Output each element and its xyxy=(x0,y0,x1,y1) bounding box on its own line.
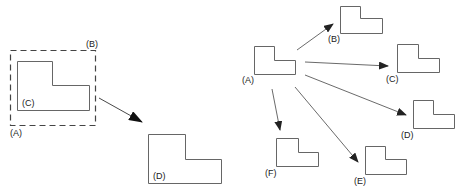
l-shape-copy-b xyxy=(341,7,383,34)
label-right-f: (F) xyxy=(265,169,277,178)
label-left-b: (B) xyxy=(86,40,98,49)
l-shape-copy-c xyxy=(398,45,440,73)
l-shape-copy-f xyxy=(277,139,319,167)
l-shape-source xyxy=(255,47,296,75)
l-shape-copy-e xyxy=(366,147,407,175)
label-right-a: (A) xyxy=(242,76,254,85)
copy-arrow-f xyxy=(272,89,280,130)
label-left-d: (D) xyxy=(153,172,166,181)
label-right-d: (D) xyxy=(401,131,414,140)
l-shape-copy-d xyxy=(414,101,455,129)
move-arrow xyxy=(99,98,142,122)
label-left-a: (A) xyxy=(10,129,22,138)
copy-arrow-c xyxy=(305,62,388,66)
label-right-c: (C) xyxy=(386,75,399,84)
label-right-e: (E) xyxy=(354,177,366,186)
label-right-b: (B) xyxy=(328,35,340,44)
copy-arrow-e xyxy=(295,87,358,162)
label-left-c: (C) xyxy=(22,99,35,108)
diagram-canvas xyxy=(0,0,459,192)
